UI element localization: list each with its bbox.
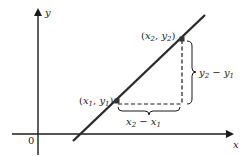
point-2-marker	[180, 37, 185, 42]
x-axis-label: x	[233, 139, 239, 150]
rise-brace	[187, 41, 196, 104]
point-2-label: (x2, y2)	[141, 30, 176, 43]
point-1-marker	[115, 99, 120, 104]
rise-label: y2 − y1	[198, 67, 234, 80]
origin-label: 0	[28, 135, 34, 146]
run-label: x2 − x1	[126, 116, 161, 129]
run-brace	[118, 107, 180, 115]
y-axis-label: y	[44, 7, 51, 18]
slope-diagram: y x 0 (x1, y1) (x2, y2) y2 − y1 x2 − x1	[0, 0, 250, 156]
point-1-label: (x1, y1)	[79, 95, 114, 108]
